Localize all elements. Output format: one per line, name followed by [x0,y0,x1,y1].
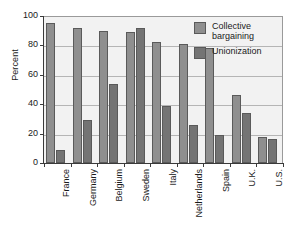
bar [258,137,267,163]
x-tick-label: Germany [88,169,98,206]
bar [46,23,55,163]
legend-swatch-collective-bargaining-icon [194,22,206,34]
x-tick-mark [44,163,45,167]
bar-group [97,16,124,163]
y-tick-mark [40,45,43,46]
bar-group [124,16,151,163]
bar-group [71,16,98,163]
legend-item-collective-bargaining: Collective bargaining [194,21,262,41]
bar [268,139,277,163]
x-tick-label: Spain [221,169,231,192]
legend-label-unionization: Unionization [212,46,262,56]
bar [179,44,188,163]
bar [56,150,65,163]
bar [162,106,171,163]
bar [189,125,198,163]
bar [242,113,251,163]
bar-chart: Percent 100806040200 FranceGermanyBelgiu… [0,0,297,235]
y-tick-mark [40,104,43,105]
x-tick-mark [150,163,151,167]
y-tick-mark [40,16,43,17]
bar [215,135,224,163]
x-tick-label: Sweden [141,169,151,202]
y-tick-mark [40,75,43,76]
legend-swatch-unionization-icon [194,47,206,59]
legend-item-unionization: Unionization [194,46,262,59]
x-tick-label: Netherlands [194,169,204,218]
x-tick-mark [124,163,125,167]
y-tick-label: 80 [12,40,38,49]
y-tick-mark [40,163,43,164]
x-tick-label: France [61,169,71,197]
x-tick-mark [256,163,257,167]
y-tick-mark [40,134,43,135]
bar [99,31,108,163]
x-tick-mark [71,163,72,167]
x-tick-mark [203,163,204,167]
x-tick-label: Italy [168,169,178,186]
y-tick-label: 100 [12,11,38,20]
x-tick-label: U.K. [247,169,257,187]
bar [83,120,92,163]
y-tick-label: 0 [12,158,38,167]
x-tick-mark [177,163,178,167]
legend-label-collective-bargaining: Collective bargaining [212,21,254,41]
x-tick-mark [230,163,231,167]
x-axis-line [43,163,284,164]
x-tick-mark [283,163,284,167]
bar [136,28,145,163]
y-tick-label: 40 [12,99,38,108]
bar [152,42,161,163]
bar [109,84,118,163]
bar [205,48,214,163]
bar [73,28,82,163]
y-tick-label: 60 [12,70,38,79]
bar [126,32,135,163]
y-tick-label: 20 [12,129,38,138]
bar-group [44,16,71,163]
x-tick-label: U.S. [274,169,284,187]
bar [232,95,241,163]
x-tick-mark [97,163,98,167]
x-tick-label: Belgium [114,169,124,202]
bar-group [150,16,177,163]
chart-legend: Collective bargaining Unionization [194,21,262,64]
